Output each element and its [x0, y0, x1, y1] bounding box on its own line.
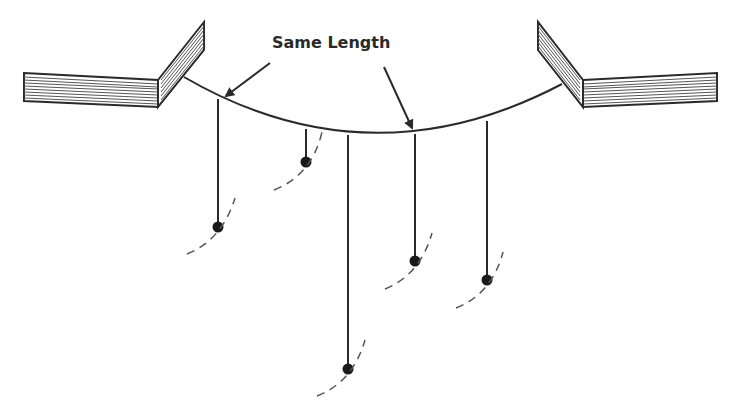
pendulum-4 [385, 134, 432, 289]
swing-arc [317, 340, 365, 396]
swing-arc [456, 252, 503, 308]
pendulum-diagram: Same Length [0, 0, 735, 420]
right-support [538, 22, 717, 107]
pendulum-1 [187, 99, 235, 254]
swing-arc [187, 198, 235, 254]
diagram-canvas [0, 0, 735, 420]
arrow-to-pendulum-1 [226, 63, 270, 96]
swing-arc [385, 233, 432, 289]
left-support [24, 22, 204, 107]
same-length-label: Same Length [272, 33, 390, 52]
arrow-to-pendulum-4 [384, 67, 412, 128]
pendulum-2 [274, 129, 322, 190]
swing-arc [274, 132, 322, 190]
pendulum-5 [456, 121, 503, 308]
pendulum-3 [317, 135, 365, 396]
